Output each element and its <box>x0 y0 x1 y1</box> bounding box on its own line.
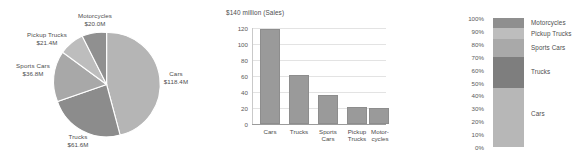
stacked-bar-panel: 100% 90% 80% 70% 60% 50% 40% 30% 20% 10%… <box>405 0 585 165</box>
pie-slices <box>53 32 160 137</box>
bar-cars <box>260 29 280 124</box>
stack-ytick-0: 0% <box>452 144 484 151</box>
stack-ytick-70: 70% <box>452 54 484 61</box>
pie-label-motorcycles: Motorcycles $20.0M <box>60 12 130 27</box>
bar-sports-cars <box>318 95 338 124</box>
legend-item-motorcycles: Motorcycles <box>531 19 566 26</box>
pie-label-sports-cars: Sports Cars $36.8M <box>2 62 64 77</box>
legend-item-sports-cars: Sports Cars <box>531 44 565 51</box>
bar-ytick-40: 40 <box>202 89 248 96</box>
pie-label-cars: Cars $118.4M <box>152 70 200 85</box>
bar-trucks <box>289 75 309 124</box>
bar-ytick-60: 60 <box>202 73 248 80</box>
stack-ytick-20: 20% <box>452 118 484 125</box>
stack-segment-cars <box>493 88 524 147</box>
stack-segment-sports-cars <box>493 39 524 57</box>
stacked-bar-plot: 100% 90% 80% 70% 60% 50% 40% 30% 20% 10%… <box>493 18 524 147</box>
legend-item-cars: Cars <box>531 110 545 117</box>
pie-label-motorcycles-name: Motorcycles <box>60 12 130 20</box>
bar-xtick-motorcycles: Motor- cycles <box>360 128 400 143</box>
stack-ytick-30: 30% <box>452 105 484 112</box>
stack-ytick-50: 50% <box>452 80 484 87</box>
pie-label-pickup-trucks-name: Pickup Trucks <box>12 31 82 39</box>
bar-ytick-100: 100 <box>202 41 248 48</box>
stack-ytick-40: 40% <box>452 92 484 99</box>
pie-label-trucks-value: $61.6M <box>48 141 108 149</box>
bar-pickup-trucks <box>347 107 367 124</box>
bar-motorcycles <box>369 108 389 124</box>
pie-label-sports-cars-value: $36.8M <box>2 70 64 78</box>
pie-label-trucks-name: Trucks <box>48 133 108 141</box>
bar-chart-panel: $140 million (Sales) 120 100 80 60 40 20… <box>200 0 405 165</box>
bar-xtick-motorcycles-line2: cycles <box>360 135 400 142</box>
bar-chart-y-axis <box>252 28 253 125</box>
pie-label-pickup-trucks-value: $21.4M <box>12 39 82 47</box>
legend-item-pickup-trucks: Pickup Trucks <box>531 30 572 37</box>
stack-segment-trucks <box>493 57 524 88</box>
bar-chart-x-axis <box>252 124 386 125</box>
bar-xtick-motorcycles-line1: Motor- <box>360 128 400 135</box>
pie-label-cars-value: $118.4M <box>152 78 200 86</box>
pie-label-pickup-trucks: Pickup Trucks $21.4M <box>12 31 82 46</box>
pie-label-motorcycles-value: $20.0M <box>60 20 130 28</box>
bar-chart-title: $140 million (Sales) <box>226 9 284 16</box>
pie-label-trucks: Trucks $61.6M <box>48 133 108 148</box>
stack-segment-pickup-trucks <box>493 28 524 39</box>
pie-label-cars-name: Cars <box>152 70 200 78</box>
bar-ytick-0: 0 <box>202 121 248 128</box>
stack-ytick-90: 90% <box>452 28 484 35</box>
legend-item-trucks: Trucks <box>531 68 550 75</box>
bar-ytick-80: 80 <box>202 57 248 64</box>
stack-ytick-60: 60% <box>452 67 484 74</box>
stack-ytick-80: 80% <box>452 41 484 48</box>
stack-segment-motorcycles <box>493 18 524 28</box>
pie-chart-panel: Motorcycles $20.0M Pickup Trucks $21.4M … <box>0 0 200 165</box>
bar-chart-plot: 120 100 80 60 40 20 0 Cars Trucks Sports… <box>252 28 386 125</box>
stack-ytick-100: 100% <box>452 15 484 22</box>
stack-ytick-10: 10% <box>452 131 484 138</box>
pie-label-sports-cars-name: Sports Cars <box>2 62 64 70</box>
bar-ytick-20: 20 <box>202 105 248 112</box>
bar-ytick-120: 120 <box>202 25 248 32</box>
